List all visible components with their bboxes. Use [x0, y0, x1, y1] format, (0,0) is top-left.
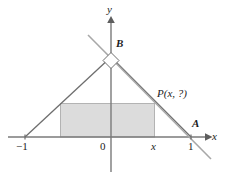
tick-label-negative-one: −1 [16, 141, 28, 152]
x-axis-label: x [212, 131, 217, 142]
tick-label-x-variable: x [151, 141, 156, 152]
point-label-a: A [192, 118, 199, 129]
point-label-p: P(x, ?) [157, 88, 187, 99]
point-label-b: B [116, 38, 123, 49]
y-axis-label: y [107, 4, 112, 15]
tick-label-origin: 0 [100, 141, 106, 152]
right-angle-marker [103, 53, 119, 69]
tick-label-one: 1 [188, 141, 194, 152]
y-axis-arrowhead [107, 16, 115, 23]
inscribed-rectangle [61, 104, 155, 138]
geometry-figure: y x B A P(x, ?) −1 0 x 1 [0, 0, 226, 178]
